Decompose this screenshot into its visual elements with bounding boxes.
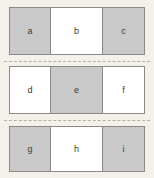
grid-cell-f: f <box>103 67 144 113</box>
dashed-separator-1 <box>4 61 150 62</box>
grid-cell-b-label: b <box>74 27 79 36</box>
grid-cell-f-label: f <box>122 86 125 95</box>
grid-cell-d-label: d <box>27 86 32 95</box>
grid-diagram: a b c d e f g h i <box>0 0 154 178</box>
grid-cell-a: a <box>10 8 51 54</box>
grid-row-1: a b c <box>9 7 145 55</box>
grid-cell-e-label: e <box>74 86 79 95</box>
grid-cell-d: d <box>10 67 51 113</box>
grid-cell-c-label: c <box>121 27 126 36</box>
grid-cell-c: c <box>103 8 144 54</box>
dashed-separator-2 <box>4 120 150 121</box>
grid-cell-i-label: i <box>123 145 125 154</box>
grid-cell-g: g <box>10 127 51 171</box>
grid-cell-b: b <box>51 8 103 54</box>
grid-cell-h-label: h <box>74 145 79 154</box>
grid-cell-e: e <box>51 67 103 113</box>
grid-row-2: d e f <box>9 66 145 114</box>
grid-cell-a-label: a <box>27 27 32 36</box>
grid-cell-g-label: g <box>27 145 32 154</box>
grid-row-3: g h i <box>9 126 145 172</box>
grid-cell-i: i <box>103 127 144 171</box>
grid-cell-h: h <box>51 127 103 171</box>
